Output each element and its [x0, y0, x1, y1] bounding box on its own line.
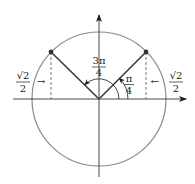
label-sqrt2-over-2-left: √2 2 →: [16, 70, 46, 94]
label-3pi-over-4: 3π 4: [92, 55, 106, 78]
left-arrow-icon: ←: [151, 76, 159, 87]
unit-circle-diagram: 3π 4 π 4 √2 2 → ← √2 2: [0, 0, 195, 184]
label-3pi-denominator: 4: [96, 67, 102, 78]
left-sqrt2-numerator: √2: [17, 70, 30, 81]
right-arrow-icon: →: [37, 76, 46, 87]
label-pi-over-4: π 4: [124, 73, 134, 96]
left-sqrt2-denominator: 2: [20, 83, 26, 94]
diagram-canvas: 3π 4 π 4 √2 2 → ← √2 2: [0, 0, 195, 184]
label-sqrt2-over-2-right: ← √2 2: [151, 70, 183, 94]
label-pi-denominator: 4: [126, 85, 132, 96]
right-sqrt2-numerator: √2: [170, 70, 183, 81]
right-sqrt2-denominator: 2: [173, 83, 179, 94]
label-3pi-numerator: 3π: [93, 55, 106, 66]
point-3pi-over-4: [49, 50, 54, 55]
point-pi-over-4: [144, 50, 149, 55]
label-pi-numerator: π: [126, 73, 133, 84]
ray-pi-over-4: [99, 52, 146, 99]
